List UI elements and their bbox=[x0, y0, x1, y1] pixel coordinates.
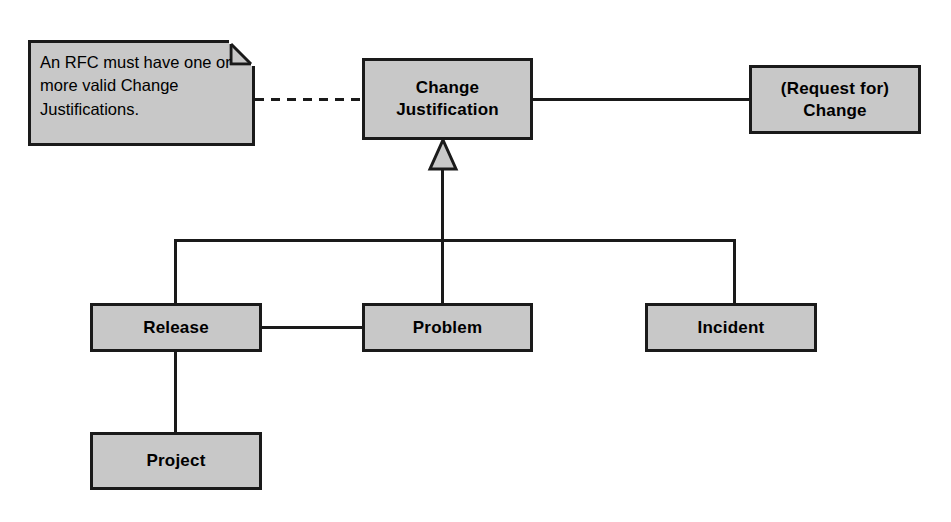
generalization-stem bbox=[441, 168, 444, 242]
node-problem-label: Problem bbox=[407, 317, 488, 339]
node-incident-label: Incident bbox=[692, 317, 771, 339]
node-release-label: Release bbox=[137, 317, 215, 339]
node-change-justification[interactable]: Change Justification bbox=[362, 58, 533, 140]
note-dashed-connector bbox=[255, 98, 362, 101]
node-incident[interactable]: Incident bbox=[645, 303, 817, 352]
node-request-for-change[interactable]: (Request for) Change bbox=[749, 65, 921, 134]
node-release[interactable]: Release bbox=[90, 303, 262, 352]
note-shape: An RFC must have one or more valid Chang… bbox=[28, 40, 255, 146]
bus-leg-incident bbox=[733, 239, 736, 305]
bus-leg-release bbox=[174, 239, 177, 305]
generalization-triangle-icon bbox=[427, 138, 459, 172]
node-problem[interactable]: Problem bbox=[362, 303, 533, 352]
uml-diagram-canvas: An RFC must have one or more valid Chang… bbox=[0, 0, 951, 522]
connector-cj-to-rfc bbox=[531, 98, 751, 101]
connector-release-to-project bbox=[174, 350, 177, 434]
generalization-bus-line bbox=[174, 239, 736, 242]
note-text: An RFC must have one or more valid Chang… bbox=[40, 51, 244, 121]
bus-leg-problem bbox=[441, 239, 444, 305]
node-project-label: Project bbox=[140, 450, 211, 472]
connector-release-to-problem bbox=[260, 326, 364, 329]
node-change-justification-label: Change Justification bbox=[390, 77, 505, 121]
node-request-for-change-label: (Request for) Change bbox=[775, 78, 895, 122]
node-project[interactable]: Project bbox=[90, 432, 262, 490]
